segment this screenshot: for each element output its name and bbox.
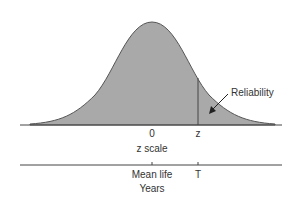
z-label: z — [196, 128, 201, 139]
t-label: T — [195, 169, 201, 180]
reliability-diagram: Reliability 0 z z scale Mean life T Year… — [0, 0, 300, 205]
normal-curve-area — [30, 22, 275, 125]
years-title: Years — [139, 183, 164, 194]
z-scale-title: z scale — [136, 143, 168, 154]
mean-life-label: Mean life — [132, 169, 173, 180]
reliability-label: Reliability — [231, 87, 274, 98]
zero-label: 0 — [149, 128, 155, 139]
